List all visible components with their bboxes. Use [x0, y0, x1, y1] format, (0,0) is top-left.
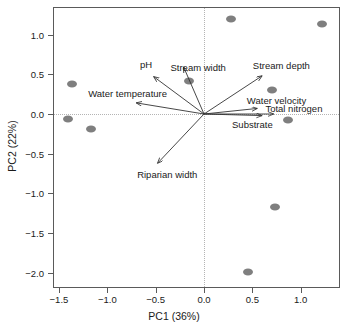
scatter-point [63, 115, 73, 122]
scatter-point [317, 21, 327, 28]
scatter-point [283, 116, 293, 123]
vector-label-ph: pH [140, 58, 152, 69]
scatter-point [243, 269, 253, 276]
x-tick [156, 288, 157, 293]
y-tick [48, 193, 53, 194]
vector-label-total-nitrogen: Total nitrogen [265, 102, 322, 113]
vector-label-water-temperature: Water temperature [88, 88, 167, 99]
y-tick-label: 1.0 [31, 29, 44, 40]
reference-line-horizontal [54, 114, 339, 115]
pca-biplot: −1.5−1.0−0.50.00.51.0 1.00.50.0−0.5−1.0−… [0, 0, 348, 329]
x-tick [107, 288, 108, 293]
reference-line-vertical [204, 8, 205, 287]
x-tick-label: 0.0 [197, 294, 210, 305]
x-tick-label: 1.0 [294, 294, 307, 305]
x-tick-label: −1.0 [98, 294, 117, 305]
scatter-point [270, 203, 280, 210]
scatter-point [226, 15, 236, 22]
x-tick-label: 0.5 [246, 294, 259, 305]
y-tick-label: −2.0 [25, 267, 44, 278]
scatter-point [184, 77, 194, 84]
y-tick [48, 35, 53, 36]
y-axis-title: PC2 (22%) [6, 76, 18, 216]
x-tick-label: −0.5 [146, 294, 165, 305]
plot-frame [53, 7, 340, 288]
y-tick [48, 233, 53, 234]
vector-label-stream-depth: Stream depth [253, 59, 310, 70]
y-tick-label: −0.5 [25, 148, 44, 159]
scatter-point [67, 80, 77, 87]
scatter-point [86, 126, 96, 133]
x-tick [301, 288, 302, 293]
x-tick [204, 288, 205, 293]
y-tick [48, 74, 53, 75]
y-tick [48, 154, 53, 155]
x-tick-label: −1.5 [50, 294, 69, 305]
x-tick [59, 288, 60, 293]
scatter-point [267, 87, 277, 94]
vector-label-riparian-width: Riparian width [137, 169, 197, 180]
y-tick [48, 114, 53, 115]
y-tick-label: 0.0 [31, 109, 44, 120]
x-tick [252, 288, 253, 293]
vector-label-stream-width: Stream width [170, 62, 225, 73]
y-tick [48, 273, 53, 274]
x-axis-title: PC1 (36%) [0, 310, 348, 322]
y-tick-label: −1.5 [25, 228, 44, 239]
vector-label-substrate: Substrate [232, 118, 273, 129]
y-tick-label: 0.5 [31, 69, 44, 80]
y-tick-label: −1.0 [25, 188, 44, 199]
